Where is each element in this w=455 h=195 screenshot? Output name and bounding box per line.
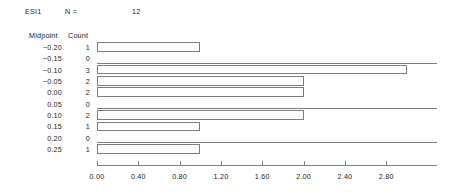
midpoint-value: −0.20 bbox=[0, 43, 62, 52]
x-axis-tick bbox=[180, 161, 181, 166]
count-value: 2 bbox=[64, 77, 90, 86]
midpoint-value: 0.20 bbox=[0, 134, 62, 143]
histogram-row: 0.251 bbox=[0, 144, 455, 155]
x-axis-tick-label: 0.40 bbox=[131, 172, 146, 181]
midpoint-value: −0.15 bbox=[0, 54, 62, 63]
histogram-row: 0.050 bbox=[0, 98, 455, 109]
count-value: 3 bbox=[64, 66, 90, 75]
histogram-panel: ESI1 N = 12 Midpoint Count −0.201−0.150−… bbox=[0, 0, 455, 195]
histogram-row: −0.201 bbox=[0, 42, 455, 53]
count-value: 0 bbox=[64, 100, 90, 109]
histogram-row: 0.002 bbox=[0, 87, 455, 98]
chart-plot-area: −0.201−0.150−0.103−0.0520.0020.0500.1020… bbox=[0, 0, 455, 195]
histogram-bar bbox=[97, 87, 304, 97]
histogram-row: 0.151 bbox=[0, 121, 455, 132]
histogram-row: 0.200 bbox=[0, 132, 455, 143]
x-axis-tick-label: 2.00 bbox=[296, 172, 311, 181]
x-axis-tick bbox=[97, 161, 98, 166]
histogram-row: −0.103 bbox=[0, 64, 455, 75]
histogram-bar bbox=[97, 76, 304, 86]
x-axis-tick bbox=[345, 161, 346, 166]
count-value: 0 bbox=[64, 54, 90, 63]
histogram-bar bbox=[97, 144, 200, 154]
midpoint-value: −0.10 bbox=[0, 66, 62, 75]
x-axis-tick-label: 0.00 bbox=[90, 172, 105, 181]
midpoint-value: 0.05 bbox=[0, 100, 62, 109]
midpoint-value: 0.00 bbox=[0, 88, 62, 97]
midpoint-value: −0.05 bbox=[0, 77, 62, 86]
x-axis-tick bbox=[304, 161, 305, 166]
count-value: 2 bbox=[64, 111, 90, 120]
count-value: 0 bbox=[64, 134, 90, 143]
x-axis-tick-label: 2.40 bbox=[338, 172, 353, 181]
histogram-row: 0.102 bbox=[0, 110, 455, 121]
midpoint-value: 0.25 bbox=[0, 145, 62, 154]
histogram-bar bbox=[97, 65, 407, 75]
x-axis-tick-label: 2.80 bbox=[379, 172, 394, 181]
count-value: 1 bbox=[64, 43, 90, 52]
midpoint-value: 0.15 bbox=[0, 122, 62, 131]
count-value: 1 bbox=[64, 145, 90, 154]
count-value: 1 bbox=[64, 122, 90, 131]
histogram-row: −0.052 bbox=[0, 76, 455, 87]
x-axis-tick bbox=[221, 161, 222, 166]
x-axis-tick bbox=[138, 161, 139, 166]
count-value: 2 bbox=[64, 88, 90, 97]
x-axis-tick-label: 1.20 bbox=[214, 172, 229, 181]
histogram-row: −0.150 bbox=[0, 53, 455, 64]
midpoint-value: 0.10 bbox=[0, 111, 62, 120]
x-axis-tick-label: 1.60 bbox=[255, 172, 270, 181]
x-axis-tick-label: 0.80 bbox=[172, 172, 187, 181]
histogram-bar bbox=[97, 110, 304, 120]
histogram-bar bbox=[97, 122, 200, 132]
histogram-bar bbox=[97, 42, 200, 52]
x-axis-tick bbox=[386, 161, 387, 166]
x-axis-tick bbox=[262, 161, 263, 166]
